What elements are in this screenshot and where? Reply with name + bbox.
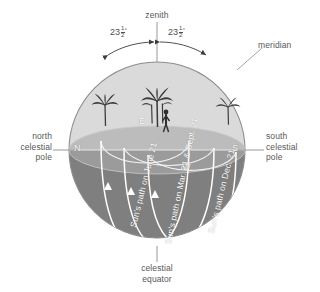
angle-left-whole: 23 [110, 27, 120, 37]
celestial-equator-label: celestial equator [123, 263, 191, 284]
angle-left-degree: ° [125, 27, 127, 33]
south-celestial-pole-label: south celestial pole [266, 131, 318, 163]
angle-arrow-right [160, 42, 206, 55]
cardinal-point-east: E [139, 116, 145, 126]
diagram-canvas: zenith meridian north celestial pole sou… [0, 0, 320, 292]
zenith-label: zenith [125, 10, 189, 21]
angle-right-whole: 23 [168, 27, 178, 37]
meridian-leader [237, 48, 262, 70]
north-celestial-pole-label: north celestial pole [2, 131, 52, 163]
cardinal-point-north: N [74, 143, 81, 153]
angle-arrow-left [108, 42, 154, 55]
angle-right-degree: ° [183, 27, 185, 33]
angle-left-denominator: 2 [121, 33, 125, 39]
meridian-label: meridian [258, 40, 316, 51]
angle-label-left: 2312° [110, 26, 127, 38]
angle-right-denominator: 2 [179, 33, 183, 39]
angle-label-right: 2312° [168, 26, 185, 38]
